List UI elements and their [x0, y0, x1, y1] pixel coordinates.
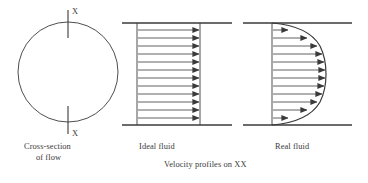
ideal-fluid-caption: Ideal fluid — [139, 142, 175, 153]
real-fluid-caption: Real fluid — [275, 142, 309, 153]
figure-title: Velocity profiles on XX — [164, 160, 247, 171]
cross-section-caption-line2: of flow — [36, 153, 61, 164]
section-label-top: X — [72, 7, 78, 16]
section-label-bottom: X — [72, 129, 78, 138]
cross-section-caption-line1: Cross-section — [24, 142, 71, 153]
